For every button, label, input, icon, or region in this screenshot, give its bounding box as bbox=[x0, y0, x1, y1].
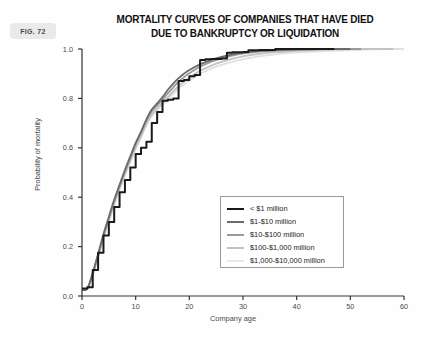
x-tick-label: 50 bbox=[338, 302, 362, 311]
legend-swatch-line-icon bbox=[227, 221, 244, 223]
x-tick-label: 0 bbox=[70, 302, 94, 311]
y-tick-label: 1.0 bbox=[51, 45, 73, 54]
legend-item[interactable]: $1,000-$10,000 million bbox=[227, 254, 343, 267]
chart-legend: < $1 million$1-$10 million$10-$100 milli… bbox=[220, 196, 344, 268]
y-tick-label: 0.2 bbox=[51, 242, 73, 251]
y-axis-title: Probability of mortality bbox=[33, 85, 42, 225]
legend-swatch-line-icon bbox=[227, 260, 244, 262]
legend-swatch-line-icon bbox=[227, 247, 244, 249]
y-tick-label: 0.0 bbox=[51, 292, 73, 301]
legend-item-label: $1-$10 million bbox=[250, 217, 296, 226]
legend-item-label: $1,000-$10,000 million bbox=[250, 256, 325, 265]
x-axis-title: Company age bbox=[163, 314, 303, 323]
legend-item[interactable]: < $1 million bbox=[227, 202, 343, 215]
legend-item[interactable]: $1-$10 million bbox=[227, 215, 343, 228]
legend-item-label: $100-$1,000 million bbox=[250, 243, 315, 252]
y-tick-label: 0.6 bbox=[51, 143, 73, 152]
legend-item[interactable]: $100-$1,000 million bbox=[227, 241, 343, 254]
legend-item[interactable]: $10-$100 million bbox=[227, 228, 343, 241]
figure-root: FIG. 72 MORTALITY CURVES OF COMPANIES TH… bbox=[0, 0, 423, 340]
x-tick-label: 10 bbox=[124, 302, 148, 311]
legend-swatch-line-icon bbox=[227, 208, 244, 210]
x-tick-label: 20 bbox=[177, 302, 201, 311]
y-tick-label: 0.8 bbox=[51, 94, 73, 103]
x-tick-label: 40 bbox=[285, 302, 309, 311]
x-tick-label: 60 bbox=[392, 302, 416, 311]
plot-area: Probability of mortality Company age 0.0… bbox=[0, 0, 423, 340]
x-tick-label: 30 bbox=[231, 302, 255, 311]
y-tick-label: 0.4 bbox=[51, 193, 73, 202]
legend-item-label: $10-$100 million bbox=[250, 230, 304, 239]
legend-item-label: < $1 million bbox=[250, 204, 288, 213]
legend-swatch-line-icon bbox=[227, 234, 244, 236]
